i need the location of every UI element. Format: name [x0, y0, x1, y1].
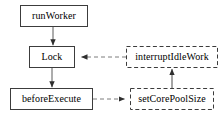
- diagram-canvas: runWorker Lock beforeExecute interruptId…: [0, 0, 222, 120]
- node-box-interruptidlework[interactable]: [127, 47, 218, 68]
- diagram-graphics: [0, 0, 222, 120]
- node-box-setcorepoolsize[interactable]: [131, 89, 214, 110]
- node-box-beforeexecute[interactable]: [11, 89, 93, 110]
- node-box-lock[interactable]: [30, 47, 75, 68]
- node-box-runworker[interactable]: [21, 6, 88, 27]
